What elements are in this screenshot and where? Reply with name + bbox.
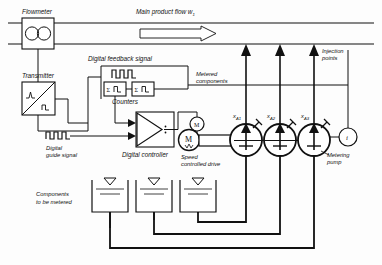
- digital-feedback-signal-label: Digital feedback signal: [88, 55, 153, 63]
- speed-drive-label-line2: controlled drive: [181, 161, 221, 167]
- main-product-flow-label: Main product flow w1: [136, 8, 195, 17]
- process-flow-diagram: Main product flow w1 Flowmeter Transmitt…: [0, 0, 382, 265]
- flowmeter-label: Flowmeter: [22, 8, 53, 15]
- pump-3-label: xA3: [300, 113, 310, 121]
- flow-direction-arrow: [140, 26, 216, 41]
- counters-label: Counters: [112, 98, 139, 105]
- metered-components-label-line1: Metered: [196, 71, 218, 77]
- injection-riser-1: [241, 44, 251, 124]
- injection-points-label-line1: Injection: [322, 48, 344, 54]
- digital-controller-symbol: [136, 112, 178, 147]
- pump-1-label: xA1: [232, 113, 241, 121]
- feedback-waveform-icon: [112, 70, 136, 78]
- controller-input-arrows: [128, 119, 136, 140]
- speed-drive-label-line1: Speed: [181, 154, 199, 160]
- transmitter-symbol: [22, 63, 55, 115]
- metering-pump-label-line1: Metering: [327, 152, 350, 158]
- metering-pump-label-line2: pump: [326, 159, 342, 165]
- injection-riser-2: [275, 44, 285, 124]
- transmitter-label: Transmitter: [22, 72, 55, 79]
- metering-pump-3: [298, 119, 330, 156]
- metering-pump-1: [230, 119, 262, 156]
- digital-guide-signal-label-line2: guide signal: [46, 152, 78, 158]
- counter-sigma-1: Σ: [107, 87, 111, 93]
- drive-motor-label: M: [185, 135, 192, 144]
- injection-riser-3: [309, 44, 319, 124]
- digital-guide-signal-label-line1: Digital: [46, 145, 63, 151]
- components-label-line1: Components: [36, 191, 69, 197]
- digital-controller-label: Digital controller: [122, 151, 169, 159]
- digital-guide-waveform-icon: [46, 132, 70, 139]
- speed-controlled-drive: M M: [179, 117, 235, 151]
- indicator-instrument: i: [330, 50, 357, 146]
- pump-2-label: xA2: [266, 113, 276, 121]
- counter-sigma-2: Σ: [135, 87, 139, 93]
- flowmeter-symbol: [22, 18, 54, 63]
- metered-components-label-line2: components: [196, 78, 228, 84]
- component-tank-3: [180, 178, 216, 213]
- diagram-canvas: Main product flow w1 Flowmeter Transmitt…: [0, 0, 382, 265]
- injection-points-label-line2: points: [321, 55, 338, 61]
- metering-pump-2: [264, 119, 296, 156]
- indicator-label: i: [346, 134, 348, 142]
- counter-box-1: Σ: [104, 82, 126, 96]
- small-motor-label: M: [194, 122, 200, 128]
- components-label-line2: to be metered: [36, 199, 73, 205]
- counter-box-2: Σ: [132, 82, 154, 96]
